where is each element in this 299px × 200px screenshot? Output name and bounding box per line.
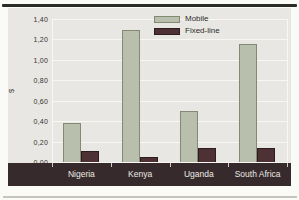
y-tick-0,20: 0,20 bbox=[20, 138, 48, 147]
legend-item-fixed-line: Fixed-line bbox=[154, 26, 220, 36]
y-tick-1,00: 1,00 bbox=[20, 56, 48, 65]
y-tick-0,60: 0,60 bbox=[20, 97, 48, 106]
bar-fixed-line-uganda bbox=[198, 148, 216, 162]
bar-fixed-line-kenya bbox=[140, 157, 158, 162]
y-tick-0,40: 0,40 bbox=[20, 117, 48, 126]
page-rule bbox=[3, 196, 297, 198]
y-tick-1,20: 1,20 bbox=[20, 35, 48, 44]
y-tick-0,80: 0,80 bbox=[20, 76, 48, 85]
scanned-figure-page: 0,000,200,400,600,801,001,201,40 $ Niger… bbox=[0, 0, 299, 200]
x-label-south-africa: South Africa bbox=[223, 167, 292, 181]
legend-label-fixed-line: Fixed-line bbox=[185, 26, 220, 36]
top-rule bbox=[2, 4, 297, 7]
bar-mobile-kenya bbox=[122, 30, 140, 162]
bar-mobile-nigeria bbox=[63, 123, 81, 162]
plot-left-edge bbox=[52, 19, 53, 162]
legend-item-mobile: Mobile bbox=[154, 14, 220, 24]
gridline-1,20 bbox=[52, 39, 287, 40]
legend: MobileFixed-line bbox=[154, 14, 220, 38]
legend-swatch-mobile bbox=[154, 16, 180, 23]
legend-label-mobile: Mobile bbox=[185, 14, 209, 24]
bar-chart: 0,000,200,400,600,801,001,201,40 $ Niger… bbox=[8, 8, 291, 186]
bar-fixed-line-nigeria bbox=[81, 151, 99, 162]
y-tick-1,40: 1,40 bbox=[20, 15, 48, 24]
bar-mobile-south-africa bbox=[239, 44, 257, 162]
bar-mobile-uganda bbox=[180, 111, 198, 162]
y-axis-title: $ bbox=[7, 84, 21, 98]
bar-fixed-line-south-africa bbox=[257, 148, 275, 162]
legend-swatch-fixed-line bbox=[154, 28, 180, 35]
plot-right-edge bbox=[287, 19, 288, 162]
